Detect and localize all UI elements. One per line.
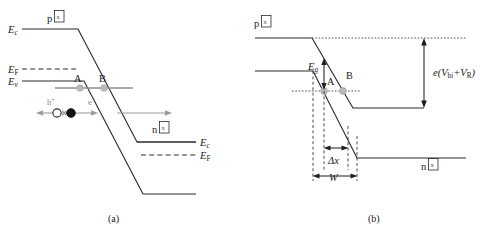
panel-b-width-arrow-head-right [351,173,358,178]
panel-a-electron-marker [67,109,76,118]
panel-b-potential-label: e(Vbi+VR) [433,67,475,80]
band-diagram-svg: p x Ec EF Ev A B h+ e− n [0,0,491,239]
panel-b-potential-arrow-head-down [421,101,427,109]
panel-b-trap-label-b: B [346,70,353,81]
panel-b-n-region-missing-glyph: x [430,161,434,168]
panel-a-p-region-label: p [47,13,52,24]
panel-a-ev-label: Ev [7,76,18,89]
panel-b-trap-marker-b [340,88,347,95]
panel-a: p x Ec EF Ev A B h+ e− n [7,11,210,226]
panel-a-electron-label: e− [88,96,96,107]
figure-root: p x Ec EF Ev A B h+ e− n [0,0,491,239]
panel-a-trap-label-b: B [99,73,106,84]
panel-a-electron-drift-arrow-head [165,110,172,116]
panel-b-conduction-band [255,38,424,108]
panel-b-delta-x-arrow-head-right [342,145,349,150]
panel-b: p x Eg A B e(Vbi+VR) Δx W n x [254,16,475,226]
panel-a-hole-arrow-head [36,110,43,116]
panel-a-caption: (a) [108,213,119,225]
panel-a-trap-marker-b [101,85,107,91]
panel-a-n-region-label: n [152,124,158,135]
panel-b-valence-band [255,71,466,158]
panel-b-potential-arrow-head-up [421,38,427,46]
panel-b-width-label: W [329,172,339,183]
panel-b-trap-label-a: A [327,76,335,87]
panel-a-conduction-band [22,29,196,142]
panel-b-caption: (b) [368,213,380,225]
panel-a-ec-label: Ec [7,24,18,37]
panel-a-hole-label: h+ [47,96,55,107]
panel-b-delta-x-arrow-head-left [324,145,331,150]
panel-b-n-region-label: n [421,161,427,172]
panel-a-trap-label-a: A [74,73,82,84]
panel-b-p-region-label: p [254,18,259,29]
panel-a-hole-marker [53,109,61,117]
panel-b-width-arrow-head-left [313,173,320,178]
panel-a-n-region-missing-glyph: x [161,124,165,131]
panel-a-p-region-missing-glyph: x [56,13,60,20]
panel-b-delta-x-label: Δx [327,155,339,166]
panel-b-p-region-missing-glyph: x [263,18,267,25]
panel-a-ef-n-label: EF [199,150,210,163]
panel-a-ec-n-label: Ec [199,137,210,150]
panel-a-trap-marker-a [77,85,83,91]
panel-a-electron-arrow-head [91,110,98,116]
